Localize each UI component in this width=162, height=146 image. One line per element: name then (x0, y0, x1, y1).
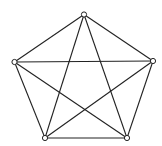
graph-nodes (12, 12, 156, 141)
edge-top-right (84, 15, 153, 62)
node-left (12, 59, 17, 64)
k5-graph-diagram (0, 0, 162, 146)
node-top (81, 12, 86, 17)
graph-edges (15, 15, 154, 139)
edge-bottom-right-left (15, 62, 128, 138)
edge-right-left (15, 61, 154, 62)
node-bottom-right (124, 135, 129, 140)
edge-top-bottom-left (45, 15, 84, 139)
node-right (150, 58, 155, 63)
edge-bottom-left-left (15, 62, 46, 138)
edge-right-bottom-right (127, 61, 153, 138)
edge-right-bottom-left (45, 61, 153, 138)
edge-top-bottom-right (84, 15, 127, 139)
node-bottom-left (42, 135, 47, 140)
edge-top-left (15, 15, 85, 63)
